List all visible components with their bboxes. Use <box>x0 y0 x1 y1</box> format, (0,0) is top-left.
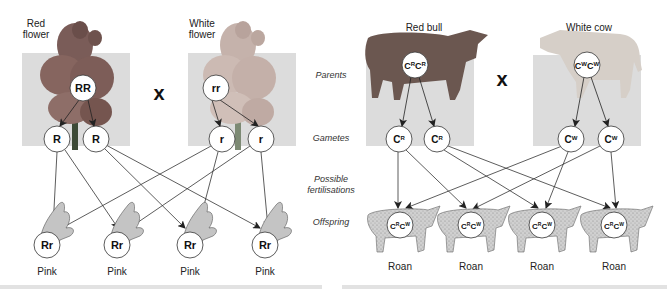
phenotype-label: Roan <box>459 261 483 272</box>
svg-text:Rr: Rr <box>41 239 54 251</box>
gamete-circle: CR <box>386 126 412 152</box>
offspring-flower: Rr Pink <box>34 202 73 277</box>
label-offspring: Offspring <box>313 217 350 227</box>
parent-genotype-crcr: CRCR <box>402 52 428 78</box>
offspring-cow: CRCW Roan <box>580 206 653 272</box>
svg-text:r: r <box>220 133 225 145</box>
white-flower-title-line1: White <box>189 18 215 29</box>
fertilisation-arrows <box>53 145 268 229</box>
white-flower-title-line2: flower <box>189 29 216 40</box>
phenotype-label: Roan <box>530 261 554 272</box>
row-labels: Parents Gametes Possible fertilisations … <box>307 70 355 227</box>
phenotype-label: Pink <box>37 266 57 277</box>
svg-text:Rr: Rr <box>184 239 197 251</box>
cross-symbol: x <box>153 82 164 104</box>
gamete-circle: CW <box>598 126 624 152</box>
parent-genotype-cwcw: CWCW <box>574 52 600 78</box>
svg-text:RR: RR <box>75 82 91 94</box>
svg-text:rr: rr <box>212 82 221 94</box>
parent-genotype-rr-dominant: RR <box>70 75 96 101</box>
offspring-flower: Rr Pink <box>177 202 216 277</box>
gamete-circle: r <box>209 126 235 152</box>
fertilisation-arrows <box>398 146 616 209</box>
svg-text:r: r <box>259 133 264 145</box>
offspring-cow: CRCW Roan <box>367 206 440 272</box>
label-possible-fertilisations-2: fertilisations <box>307 185 355 195</box>
snapdragon-cross: Red flower White flower x RR rr <box>22 18 296 277</box>
offspring-cow: CRCW Roan <box>508 206 581 272</box>
parent-genotype-rr-recessive: rr <box>203 75 229 101</box>
svg-text:Rr: Rr <box>259 239 272 251</box>
phenotype-label: Pink <box>180 266 200 277</box>
gamete-circle: r <box>248 126 274 152</box>
gamete-circle: R <box>44 126 70 152</box>
red-bull-title: Red bull <box>406 22 443 33</box>
svg-text:R: R <box>53 133 61 145</box>
gamete-circle: CR <box>424 126 450 152</box>
cross-symbol: x <box>496 68 507 90</box>
red-flower-title-line1: Red <box>27 18 45 29</box>
bottom-divider-right <box>342 285 667 289</box>
phenotype-label: Pink <box>255 266 275 277</box>
white-cow-title: White cow <box>566 22 613 33</box>
svg-text:Rr: Rr <box>111 239 124 251</box>
label-gametes: Gametes <box>313 133 350 143</box>
gamete-circle: CW <box>558 126 584 152</box>
cattle-cross: Red bull White cow x CRCR <box>365 22 653 272</box>
bottom-divider-left <box>0 285 322 289</box>
phenotype-label: Roan <box>388 261 412 272</box>
offspring-flower: Rr Pink <box>252 202 291 277</box>
label-possible-fertilisations-1: Possible <box>314 174 348 184</box>
phenotype-label: Roan <box>602 261 626 272</box>
offspring-cow: CRCW Roan <box>437 206 510 272</box>
gamete-circle: R <box>83 126 109 152</box>
svg-text:R: R <box>92 133 100 145</box>
offspring-flower: Rr Pink <box>104 202 143 277</box>
inheritance-diagram: Red flower White flower x RR rr <box>0 0 667 289</box>
label-parents: Parents <box>315 70 347 80</box>
red-flower-title-line2: flower <box>23 29 50 40</box>
phenotype-label: Pink <box>107 266 127 277</box>
